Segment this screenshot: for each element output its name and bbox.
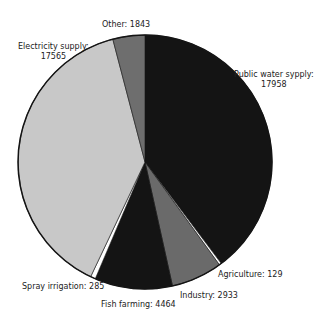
- label-text: Public water sypply:: [234, 70, 314, 80]
- label-value: 17565: [18, 52, 89, 62]
- label-text: Electricity supply:: [18, 42, 89, 52]
- label-electricity-supply: Electricity supply: 17565: [18, 42, 89, 62]
- label-industry: Industry: 2933: [180, 291, 238, 301]
- label-spray-irrigation: Spray irrigation: 285: [22, 282, 104, 292]
- pie-chart: Public water sypply: 17958 Agriculture: …: [0, 0, 331, 323]
- label-other: Other: 1843: [102, 20, 150, 30]
- label-public-water-supply: Public water sypply: 17958: [234, 70, 314, 90]
- label-fish-farming: Fish farming: 4464: [101, 300, 176, 310]
- label-value: 17958: [234, 80, 314, 90]
- label-agriculture: Agriculture: 129: [218, 270, 283, 280]
